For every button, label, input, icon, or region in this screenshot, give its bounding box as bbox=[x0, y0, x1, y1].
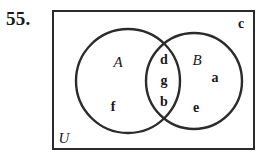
venn-diagram-figure: 55. A B d g b f a e c U bbox=[0, 0, 265, 158]
element-b-intersection: b bbox=[160, 95, 168, 109]
element-g-intersection: g bbox=[161, 74, 168, 88]
element-e-set-b-only: e bbox=[193, 101, 199, 115]
element-c-outside-sets: c bbox=[238, 17, 244, 31]
set-label-a: A bbox=[113, 55, 122, 70]
element-a-set-b-only: a bbox=[212, 71, 219, 85]
venn-circles bbox=[52, 10, 255, 150]
universal-set-label: U bbox=[59, 131, 70, 146]
element-d-intersection: d bbox=[160, 53, 168, 67]
element-f-set-a-only: f bbox=[111, 100, 116, 114]
set-label-b: B bbox=[192, 53, 201, 68]
problem-number: 55. bbox=[6, 9, 30, 28]
